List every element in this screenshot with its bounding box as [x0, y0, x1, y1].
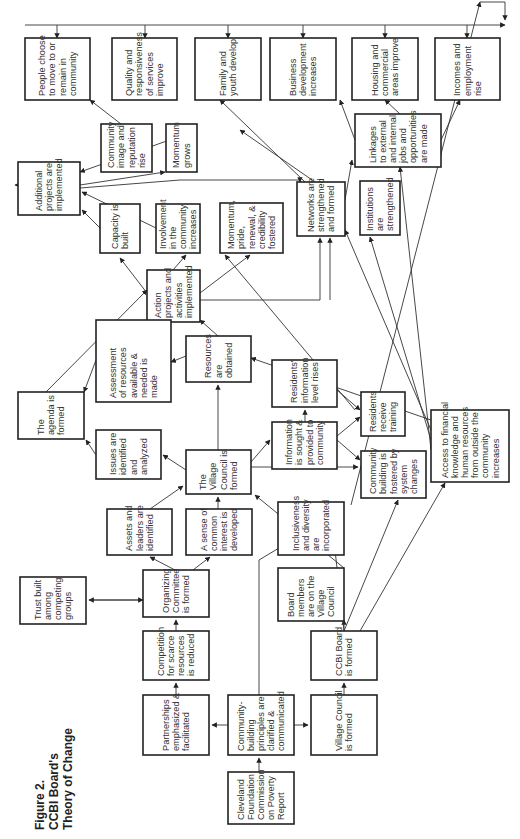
node-label-line: increases [188, 209, 198, 249]
node-ccbi-board: CCBI Boardis formed [311, 627, 377, 680]
node-partnerships: Partnershipsemphasized &facilitated [143, 693, 209, 755]
node-label-line: members [296, 578, 306, 617]
node-label-line: Council is [219, 450, 229, 490]
node-label-line: development [298, 43, 308, 96]
node-label-line: community [68, 51, 78, 96]
node-label-line: level rises [310, 362, 320, 403]
node-label-line: Incomes and [452, 43, 462, 96]
node-label-line: fostered [267, 216, 277, 249]
node-label-line: Village [316, 590, 326, 617]
node-label-line: common [209, 516, 219, 551]
node-label-line: resources [176, 635, 186, 676]
node-label-line: interest is [219, 511, 229, 551]
node-label-line: provided to [305, 420, 315, 465]
node-label-line: Community- [236, 701, 246, 751]
node-image: Communityimage andreputationrise [101, 121, 152, 172]
node-label-line: reputation [127, 127, 137, 168]
connector-arrow [200, 320, 218, 336]
connector-arrow [240, 130, 315, 182]
node-pride: Momentum,pride,renewal, &credibilityfost… [220, 200, 283, 253]
node-label-line: grows [182, 143, 192, 168]
node-involvement: Involvementin thecommunityincreases [156, 199, 200, 253]
node-label-line: areas improve [390, 38, 400, 96]
node-community-building: Communitybuilding isfostered bysystemcha… [361, 447, 426, 498]
node-label-line: is formed [181, 575, 191, 613]
node-label-line: Networks are [306, 178, 316, 232]
node-label-line: Additional [34, 171, 44, 211]
node-trust: Trust builtamongcompetinggroups [20, 577, 86, 624]
node-label-line: rise [473, 81, 483, 96]
node-label-line: Quality and [124, 50, 134, 96]
node-label-line: Village [208, 463, 218, 490]
node-label-line: system [399, 465, 409, 494]
connector-arrow [251, 440, 270, 462]
node-label-line: Family and [218, 51, 228, 96]
node-agenda: Theagenda isformed [18, 392, 84, 439]
node-label-line: The [198, 474, 208, 490]
connector-arrow [120, 258, 147, 293]
connector-arrow [150, 486, 183, 509]
node-quality: Quality andresponsivenessof servicesimpr… [112, 32, 177, 100]
node-label-line: incorporated [321, 500, 331, 551]
node-label-line: building is [378, 453, 388, 494]
node-label-line: Report [276, 792, 286, 820]
node-label-line: competing [53, 578, 63, 620]
node-label-line: of resources [118, 347, 128, 398]
node-label-line: strengthened [316, 178, 326, 232]
node-label-line: Community [106, 121, 116, 168]
node-label-line: is formed [344, 713, 354, 751]
node-label-line: agenda is [46, 395, 56, 435]
node-principles: Community-buildingprinciples areclarifie… [228, 691, 294, 755]
node-people: People chooseto move to orremain incommu… [25, 35, 90, 100]
node-label-line: in the [168, 227, 178, 249]
node-label-line: clarified & [266, 711, 276, 751]
figure-caption: Figure 2. CCBI Board's Theory of Change [33, 728, 75, 830]
node-competition: Competitionfor scarceresourcesis reduced [143, 627, 209, 680]
node-label-line: projects are [44, 163, 54, 211]
node-resources: Resourcesareobtained [186, 334, 251, 382]
node-information: Informationis sought &provided tocommuni… [272, 419, 337, 469]
node-label-line: Board [286, 592, 296, 617]
node-label-line: to move to or [47, 42, 57, 96]
node-label-line: are made [419, 124, 429, 163]
node-label-line: identified [145, 514, 155, 551]
node-label-line: A sense of [199, 508, 209, 551]
node-label-line: available & [129, 353, 139, 398]
node-label-line: and formed [326, 186, 336, 232]
node-label-line: Housing and [370, 44, 380, 96]
connector-arrow [220, 100, 305, 182]
node-action: Actionprojects andactivitiesimplemented [147, 265, 200, 322]
node-label-line: strengthened [385, 177, 395, 231]
node-label-line: human resources [460, 407, 470, 478]
node-label-line: are on the [306, 576, 316, 617]
node-assessment: Assessmentof resourcesavailable &needed … [96, 320, 171, 402]
node-label-line: building [246, 719, 256, 751]
node-label-line: Village Council [334, 690, 344, 751]
theory-of-change-diagram: People chooseto move to orremain incommu… [0, 0, 520, 839]
node-label-line: facilitated [181, 712, 191, 751]
node-label-line: jobs and [398, 128, 408, 164]
node-additional: Additionalprojects areimplemented [18, 158, 80, 215]
node-label-line: and internal [388, 115, 398, 163]
connector-arrow [193, 557, 210, 570]
node-label-line: remain in [58, 58, 68, 96]
node-residents-info: Residents'informationlevel rises [272, 358, 337, 407]
node-label-line: Foundation [246, 774, 256, 820]
node-label-line: receive [378, 402, 388, 432]
node-label-line: are [375, 218, 385, 231]
node-label-line: Committee [171, 569, 181, 613]
node-label-line: Resources [203, 334, 213, 378]
figure-title-line1: CCBI Board's [47, 753, 61, 830]
node-label-line: developed [229, 509, 239, 551]
node-label-line: Assessment [108, 348, 118, 398]
connector-arrow [171, 356, 186, 362]
node-label-line: rise [137, 153, 147, 168]
node-label-line: increases [308, 56, 318, 96]
node-board-members: Boardmembersare on theVillageCouncil [278, 568, 344, 621]
connector-arrow [385, 100, 400, 114]
connector-arrow [337, 440, 360, 460]
node-capacity: Capacity isbuilt [100, 204, 140, 253]
node-label-line: employment [463, 46, 473, 96]
node-label-line: is reduced [186, 634, 196, 676]
node-label-line: Linkages [368, 126, 378, 163]
